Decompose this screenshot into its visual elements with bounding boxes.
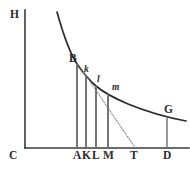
label-M: M xyxy=(103,150,114,162)
label-l: l xyxy=(97,75,100,85)
label-H: H xyxy=(10,9,19,21)
label-C: C xyxy=(9,150,17,162)
label-T: T xyxy=(130,150,138,162)
label-L: L xyxy=(92,150,100,162)
geometry-figure: H C B k l m G A K L M T D xyxy=(0,0,190,177)
label-m: m xyxy=(112,83,119,93)
label-K: K xyxy=(82,150,91,162)
tangent-line-BT xyxy=(80,67,134,146)
label-D: D xyxy=(163,150,171,162)
label-k: k xyxy=(84,65,89,75)
label-G: G xyxy=(164,104,173,116)
label-A: A xyxy=(73,150,81,162)
label-B: B xyxy=(69,53,77,65)
